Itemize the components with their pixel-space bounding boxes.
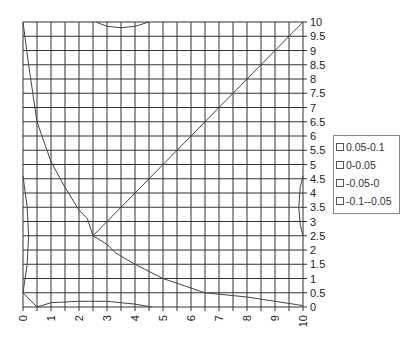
legend-swatch-icon [336, 143, 344, 151]
x-tick-label: 2 [73, 315, 85, 321]
top-arc [96, 22, 149, 28]
y-axis-ticks: 00.511.522.533.544.555.566.577.588.599.5… [310, 16, 325, 313]
y-tick-label: 9 [310, 45, 316, 57]
y-tick-label: 4 [310, 187, 316, 199]
x-tick-label: 9 [269, 315, 281, 321]
x-tick-label: 5 [157, 315, 169, 321]
legend: 0.05-0.1 0-0.05 -0.05-0 -0.1--0.05 [333, 135, 400, 214]
x-tick-label: 0 [17, 315, 29, 321]
legend-label: 0-0.05 [346, 159, 376, 171]
x-tick-label: 8 [241, 315, 253, 321]
y-tick-label: 6 [310, 130, 316, 142]
legend-swatch-icon [336, 197, 344, 205]
legend-item: 0-0.05 [336, 156, 399, 174]
x-tick-label: 4 [129, 315, 141, 321]
y-tick-label: 9.5 [310, 30, 325, 42]
diagonal-contour [93, 22, 303, 236]
right-arc [299, 176, 303, 236]
legend-label: 0.05-0.1 [346, 141, 385, 153]
y-tick-label: 7.5 [310, 87, 325, 99]
y-tick-label: 0.5 [310, 287, 325, 299]
y-tick-label: 6.5 [310, 116, 325, 128]
y-tick-label: 3.5 [310, 201, 325, 213]
x-tick-label: 7 [213, 315, 225, 321]
lower-right-contour [93, 236, 303, 306]
y-tick-label: 8.5 [310, 59, 325, 71]
upper-left-contour [23, 22, 93, 236]
legend-label: -0.1--0.05 [346, 195, 392, 207]
x-tick-label: 1 [45, 315, 57, 321]
y-tick-label: 3 [310, 216, 316, 228]
x-tick-label: 3 [101, 315, 113, 321]
y-tick-label: 8 [310, 73, 316, 85]
y-tick-label: 2 [310, 244, 316, 256]
x-tick-label: 6 [185, 315, 197, 321]
y-tick-label: 2.5 [310, 230, 325, 242]
y-tick-label: 0 [310, 301, 316, 313]
y-tick-label: 1.5 [310, 258, 325, 270]
y-tick-label: 5 [310, 159, 316, 171]
legend-item: 0.05-0.1 [336, 138, 399, 156]
y-tick-label: 7 [310, 102, 316, 114]
grid-lines [23, 22, 307, 311]
y-tick-label: 5.5 [310, 144, 325, 156]
bottom-arc [23, 293, 152, 307]
y-tick-label: 10 [310, 16, 322, 28]
x-tick-label: 10 [297, 315, 309, 327]
legend-label: -0.05-0 [346, 177, 379, 189]
legend-item: -0.05-0 [336, 174, 399, 192]
legend-item: -0.1--0.05 [336, 192, 399, 210]
y-tick-label: 1 [310, 273, 316, 285]
y-tick-label: 4.5 [310, 173, 325, 185]
legend-swatch-icon [336, 179, 344, 187]
x-axis-ticks: 012345678910 [17, 315, 309, 327]
legend-swatch-icon [336, 161, 344, 169]
